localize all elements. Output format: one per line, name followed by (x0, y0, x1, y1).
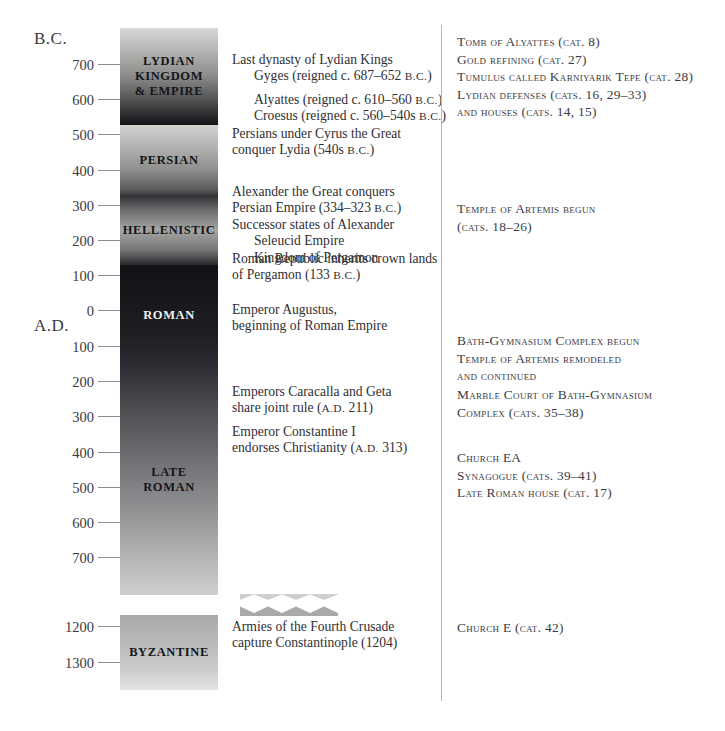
catalog-entry-line: (cats. 18–26) (457, 218, 596, 236)
timeline-event: Persians under Cyrus the Greatconquer Ly… (232, 126, 401, 159)
timeline-event-line: Roman Republic inherits crown lands (232, 251, 437, 267)
axis-tick-mark (98, 557, 120, 558)
timeline-segment-lydian: LYDIANKINGDOM& EMPIRE (120, 28, 218, 125)
timeline-event: Emperor Constantine Iendorses Christiani… (232, 424, 407, 457)
era-label-ad: A.D. (34, 316, 69, 336)
axis-tick-label: 600 (72, 515, 94, 532)
catalog-entry-line: Late Roman house (cat. 17) (457, 484, 612, 502)
timeline-event: Emperor Augustus,beginning of Roman Empi… (232, 302, 387, 335)
era-label-bc: B.C. (34, 29, 67, 49)
axis-tick-mark (98, 310, 120, 311)
timeline-event: Alyattes (reigned c. 610–560 B.C.)Croesu… (232, 92, 446, 125)
timeline-event-line: Armies of the Fourth Crusade (232, 619, 397, 635)
axis-tick-label: 700 (72, 550, 94, 567)
catalog-entry: Church E (cat. 42) (457, 619, 564, 637)
timeline-segment-hellenistic: HELLENISTIC (120, 195, 218, 265)
timeline-event-line: Alexander the Great conquers (232, 184, 401, 200)
catalog-entry-line: and continued (457, 367, 640, 385)
axis-tick-mark (98, 381, 120, 382)
timeline-event-line: share joint rule (A.D. 211) (232, 400, 392, 416)
timeline-event-line: Emperor Constantine I (232, 424, 407, 440)
timeline-event-line: conquer Lydia (540s B.C.) (232, 142, 401, 158)
axis-tick-mark (98, 99, 120, 100)
axis-tick-mark (98, 626, 120, 627)
axis-tick-mark (98, 170, 120, 171)
catalog-entry: Tomb of Alyattes (cat. 8)Gold refining (… (457, 33, 693, 121)
catalog-entry-line: Gold refining (cat. 27) (457, 51, 693, 69)
axis-tick-label: 300 (72, 198, 94, 215)
axis-tick-label: 1300 (65, 655, 94, 672)
timeline-segment-label: ROMAN (120, 308, 218, 323)
catalog-entry-line: Lydian defenses (cats. 16, 29–33) (457, 86, 693, 104)
catalog-entry-line: Temple of Artemis remodeled (457, 350, 640, 368)
timeline-event-line: endorses Christianity (A.D. 313) (232, 440, 407, 456)
column-divider (441, 25, 442, 701)
axis-tick-mark (98, 275, 120, 276)
axis-tick-label: 700 (72, 57, 94, 74)
timeline-segment-roman: ROMAN (120, 265, 218, 365)
timeline-segment-label: LATEROMAN (120, 465, 218, 495)
axis-tick-label: 300 (72, 409, 94, 426)
axis-tick-label: 100 (72, 268, 94, 285)
timeline-event-line: Seleucid Empire (232, 233, 401, 249)
axis-tick-label: 200 (72, 374, 94, 391)
catalog-entry-line: Tomb of Alyattes (cat. 8) (457, 33, 693, 51)
axis-tick-mark (98, 487, 120, 488)
axis-tick-mark (98, 416, 120, 417)
axis-tick-label: 0 (87, 303, 94, 320)
timeline-event-line: Last dynasty of Lydian Kings (232, 52, 432, 68)
axis-tick-mark (98, 662, 120, 663)
axis-tick-label: 400 (72, 163, 94, 180)
catalog-entry-line: Church EA (457, 449, 612, 467)
axis-tick-mark (98, 346, 120, 347)
timeline-event-line: beginning of Roman Empire (232, 318, 387, 334)
timeline-segment-label: BYZANTINE (120, 645, 218, 660)
axis-tick-label: 400 (72, 445, 94, 462)
axis-tick-mark (98, 205, 120, 206)
timeline-event-line: of Pergamon (133 B.C.) (232, 267, 437, 283)
catalog-entry-line: Temple of Artemis begun (457, 200, 596, 218)
axis-tick-label: 1200 (65, 619, 94, 636)
timeline-segment-late: LATEROMAN (120, 365, 218, 595)
timeline-event-line: capture Constantinople (1204) (232, 635, 397, 651)
catalog-entry-line: Complex (cats. 35–38) (457, 404, 652, 422)
timeline-event: Emperors Caracalla and Getashare joint r… (232, 384, 392, 417)
catalog-entry-line: Synagogue (cats. 39–41) (457, 467, 612, 485)
catalog-entry: Temple of Artemis begun(cats. 18–26) (457, 200, 596, 235)
axis-tick-label: 200 (72, 233, 94, 250)
catalog-entry: Bath-Gymnasium Complex begunTemple of Ar… (457, 332, 640, 385)
timeline-event-line: Croesus (reigned c. 560–540s B.C.) (232, 108, 446, 124)
catalog-entry-line: Tumulus called Karniyarik Tepe (cat. 28) (457, 68, 693, 86)
timeline-event-line: Alyattes (reigned c. 610–560 B.C.) (232, 92, 446, 108)
timeline-event-line: Emperor Augustus, (232, 302, 387, 318)
catalog-entry-line: Bath-Gymnasium Complex begun (457, 332, 640, 350)
timeline-segment-label: HELLENISTIC (120, 223, 218, 238)
axis-tick-mark (98, 240, 120, 241)
axis-tick-label: 600 (72, 92, 94, 109)
axis-tick-label: 500 (72, 480, 94, 497)
timeline-segment-label: LYDIANKINGDOM& EMPIRE (120, 54, 218, 99)
timeline-event: Armies of the Fourth Crusadecapture Cons… (232, 619, 397, 652)
axis-tick-mark (98, 134, 120, 135)
axis-tick-label: 100 (72, 339, 94, 356)
timeline-event-line: Emperors Caracalla and Geta (232, 384, 392, 400)
catalog-entry-line: Marble Court of Bath-Gymnasium (457, 386, 652, 404)
timeline-event-line: Successor states of Alexander (232, 217, 401, 233)
timeline-event-line: Persians under Cyrus the Great (232, 126, 401, 142)
catalog-entry: Church EASynagogue (cats. 39–41)Late Rom… (457, 449, 612, 502)
axis-tick-label: 500 (72, 127, 94, 144)
axis-tick-mark (98, 452, 120, 453)
timeline-chart: B.C.A.D. 7006005004003002001000100200300… (0, 0, 725, 731)
timeline-event-line: Gyges (reigned c. 687–652 B.C.) (232, 68, 432, 84)
timeline-break-zigzag (240, 594, 338, 616)
axis-tick-mark (98, 522, 120, 523)
catalog-entry: Marble Court of Bath-GymnasiumComplex (c… (457, 386, 652, 421)
catalog-entry-line: Church E (cat. 42) (457, 619, 564, 637)
catalog-entry-line: and houses (cats. 14, 15) (457, 103, 693, 121)
timeline-event: Roman Republic inherits crown landsof Pe… (232, 251, 437, 284)
timeline-event-line: Persian Empire (334–323 B.C.) (232, 200, 401, 216)
timeline-segment-byzantine: BYZANTINE (120, 615, 218, 690)
timeline-event: Last dynasty of Lydian KingsGyges (reign… (232, 52, 432, 85)
axis-tick-mark (98, 64, 120, 65)
timeline-segment-label: PERSIAN (120, 153, 218, 168)
